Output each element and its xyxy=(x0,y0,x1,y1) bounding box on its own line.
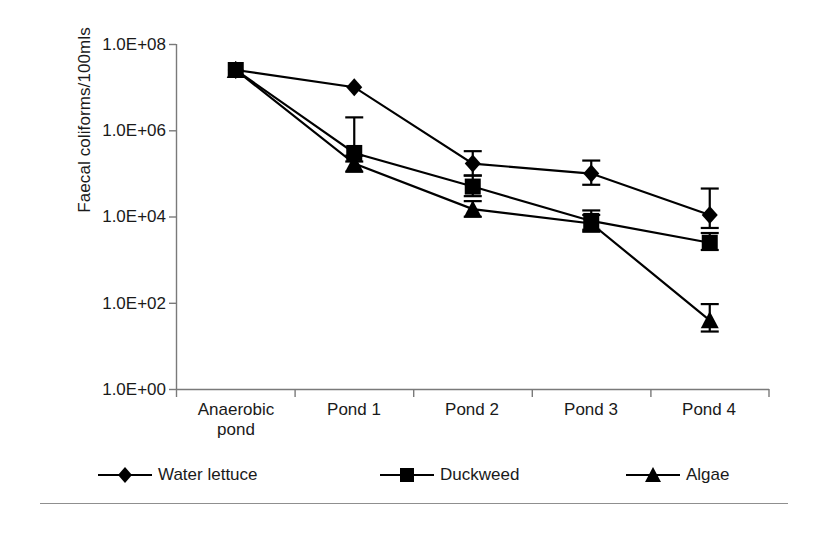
chart-figure: Faecal coliforms/100mls 1.0E+08 1.0E+06 … xyxy=(0,0,828,533)
x-tick-line1: Anaerobic xyxy=(198,400,275,419)
x-tick-label-pond-2: Pond 2 xyxy=(412,400,532,420)
triangle-marker-icon xyxy=(624,462,682,488)
diamond-marker-icon xyxy=(96,462,154,488)
x-tick-label-anaerobic-pond: Anaerobic pond xyxy=(166,400,306,440)
legend-label-algae: Algae xyxy=(686,464,729,486)
chart-legend: Water lettuce Duckweed Algae xyxy=(96,462,796,492)
x-tick-label-pond-4: Pond 4 xyxy=(649,400,769,420)
x-tick-label-pond-1: Pond 1 xyxy=(294,400,414,420)
legend-label-duckweed: Duckweed xyxy=(440,464,519,486)
legend-label-water-lettuce: Water lettuce xyxy=(158,464,258,486)
x-tick-line2: pond xyxy=(166,420,306,440)
x-tick-label-pond-3: Pond 3 xyxy=(531,400,651,420)
legend-divider xyxy=(40,503,788,504)
square-marker-icon xyxy=(378,462,436,488)
x-axis-tick-labels: Anaerobic pond Pond 1 Pond 2 Pond 3 Pond… xyxy=(0,0,828,533)
